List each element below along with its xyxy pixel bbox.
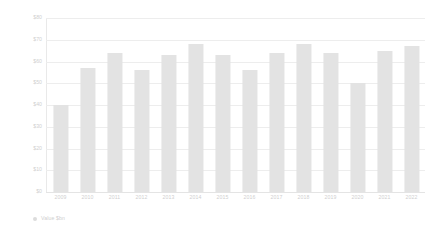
y-axis-tick-label: $20 (8, 146, 42, 151)
bar (134, 70, 149, 192)
x-axis-tick-label: 2014 (182, 195, 209, 200)
bar-slot (101, 18, 128, 192)
bar (215, 55, 230, 192)
bar-slot (74, 18, 101, 192)
x-axis-tick-label: 2012 (128, 195, 155, 200)
bar-slot (317, 18, 344, 192)
bar-slot (155, 18, 182, 192)
bar-slot (344, 18, 371, 192)
y-axis-tick-label: $50 (8, 81, 42, 86)
bar (107, 53, 122, 192)
bar (161, 55, 176, 192)
bar (377, 51, 392, 192)
x-axis-tick-labels: 2009201020112012201320142015201620172018… (47, 195, 425, 207)
x-axis-tick-label: 2016 (236, 195, 263, 200)
bar (269, 53, 284, 192)
bar-slot (209, 18, 236, 192)
y-axis-tick-label: $30 (8, 124, 42, 129)
bar (242, 70, 257, 192)
x-axis-tick-label: 2010 (74, 195, 101, 200)
x-axis-tick-label: 2011 (101, 195, 128, 200)
bar-slot (263, 18, 290, 192)
bar (323, 53, 338, 192)
bar-slot (47, 18, 74, 192)
bar-slot (236, 18, 263, 192)
y-axis-tick-label: $0 (8, 189, 42, 194)
bar (404, 46, 419, 192)
y-axis-tick-labels: $80$70$60$50$40$30$20$10$0 (8, 18, 42, 192)
y-axis-tick-label: $70 (8, 37, 42, 42)
bar-slot (290, 18, 317, 192)
y-axis-tick-label: $60 (8, 59, 42, 64)
x-axis-tick-label: 2020 (344, 195, 371, 200)
bar (80, 68, 95, 192)
bar-slot (128, 18, 155, 192)
bar (53, 105, 68, 192)
x-axis-tick-label: 2019 (317, 195, 344, 200)
y-axis-tick-label: $80 (8, 15, 42, 20)
bar-slot (398, 18, 425, 192)
x-axis-tick-label: 2015 (209, 195, 236, 200)
chart-legend: Value $bn (33, 216, 65, 221)
y-axis-tick-label: $40 (8, 102, 42, 107)
x-axis-tick-label: 2009 (47, 195, 74, 200)
x-axis-tick-label: 2022 (398, 195, 425, 200)
bar (296, 44, 311, 192)
legend-marker-icon (33, 217, 37, 221)
bar-series-group (47, 18, 425, 192)
bar-slot (371, 18, 398, 192)
x-axis-tick-label: 2018 (290, 195, 317, 200)
y-axis-tick-label: $10 (8, 168, 42, 173)
bar (350, 83, 365, 192)
x-axis-tick-label: 2021 (371, 195, 398, 200)
x-axis-tick-label: 2017 (263, 195, 290, 200)
bar (188, 44, 203, 192)
bar-slot (182, 18, 209, 192)
legend-label: Value $bn (41, 216, 65, 221)
gridline (46, 192, 425, 193)
bar-chart: $ Billion $80$70$60$50$40$30$20$10$0 200… (0, 0, 433, 237)
x-axis-tick-label: 2013 (155, 195, 182, 200)
